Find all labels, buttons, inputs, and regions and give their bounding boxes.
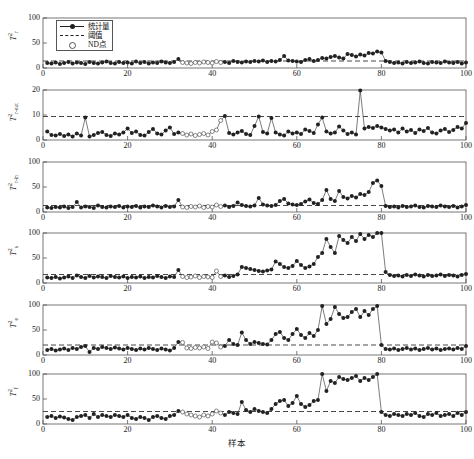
panel-2-plot — [0, 0, 474, 459]
panel-2-x-tick-0: 0 — [31, 141, 55, 150]
panel-1-x-tick-100: 100 — [454, 69, 474, 78]
panel-3-data-point — [405, 205, 409, 209]
panel-3-data-point — [295, 203, 299, 207]
panel-5-x-tick-40: 40 — [200, 356, 224, 365]
panel-4-y-tick-100: 100 — [16, 228, 40, 237]
panel-1-data-point — [151, 61, 155, 65]
panel-4-data-point — [307, 265, 311, 269]
panel-5-data-point — [316, 328, 320, 332]
panel-5-x-tick-60: 60 — [285, 356, 309, 365]
panel-4-data-point — [350, 235, 354, 239]
panel-3-data-point — [447, 205, 451, 209]
panel-2-data-point — [121, 131, 125, 135]
panel-1-data-point — [320, 56, 324, 60]
panel-5-y-label-subscript: e — [13, 318, 19, 320]
panel-6-data-point — [303, 405, 307, 409]
panel-5-nd-point — [214, 341, 218, 345]
panel-4-data-point — [240, 265, 244, 269]
panel-2-data-point — [434, 132, 438, 136]
panel-3-data-point — [58, 206, 62, 210]
panel-4-series-line — [47, 233, 466, 279]
panel-3-x-tick-60: 60 — [285, 213, 309, 222]
legend-label-statistic: 统计量 — [88, 22, 109, 31]
panel-2-data-point — [104, 133, 108, 137]
panel-2-data-point — [49, 133, 53, 137]
panel-6-data-point — [172, 413, 176, 417]
panel-4-data-point — [138, 275, 142, 279]
panel-4-nd-point — [214, 269, 218, 273]
panel-3-data-point — [312, 201, 316, 205]
panel-4-x-tick-0: 0 — [31, 284, 55, 293]
panel-3-data-point — [409, 205, 413, 209]
panel-2-data-point — [354, 133, 358, 137]
panel-3-data-point — [244, 204, 248, 208]
panel-5-data-point — [113, 346, 117, 350]
panel-5-nd-point — [181, 341, 185, 345]
panel-3-data-point — [231, 204, 235, 208]
panel-3-data-point — [341, 195, 345, 199]
panel-6-data-point — [430, 413, 434, 417]
panel-5-data-point — [291, 332, 295, 336]
panel-4-y-label-subscript: s — [13, 246, 19, 248]
panel-5-nd-point — [193, 346, 197, 350]
panel-4-data-point — [333, 251, 337, 255]
panel-5-data-point — [464, 344, 468, 348]
panel-1-data-point — [456, 60, 460, 64]
panel-3-data-point — [113, 205, 117, 209]
panel-4-data-point — [172, 275, 176, 279]
panel-2-data-point — [231, 133, 235, 137]
panel-2-data-point — [96, 131, 100, 135]
panel-2-data-point — [261, 130, 265, 134]
panel-2-data-point — [413, 131, 417, 135]
panel-6-data-point — [126, 413, 130, 417]
panel-1-data-point — [104, 60, 108, 64]
panel-3-nd-point — [198, 204, 202, 208]
panel-3-nd-point — [202, 206, 206, 210]
panel-6-nd-point — [214, 409, 218, 413]
panel-3-data-point — [117, 204, 121, 208]
panel-4-data-point — [79, 275, 83, 279]
panel-2-data-point — [447, 130, 451, 134]
panel-2-data-point — [155, 132, 159, 136]
legend-item-statistic: 统计量 — [59, 22, 109, 31]
panel-6-data-point — [274, 402, 278, 406]
panel-1-data-point — [109, 61, 113, 65]
panel-5-data-point — [417, 348, 421, 352]
panel-6-data-point — [413, 411, 417, 415]
panel-1-data-point — [176, 57, 180, 61]
panel-4-data-point — [282, 265, 286, 269]
panel-6-x-tick-0: 0 — [31, 425, 55, 434]
panel-4-nd-point — [185, 276, 189, 280]
panel-5-nd-point — [185, 346, 189, 350]
panel-4-data-point — [401, 275, 405, 279]
panel-5-data-point — [443, 347, 447, 351]
panel-2-data-point — [307, 129, 311, 133]
panel-2-data-point — [371, 126, 375, 130]
panel-1-data-point — [303, 58, 307, 62]
panel-4-data-point — [392, 274, 396, 278]
panel-2-data-point — [253, 124, 257, 128]
panel-2-data-point — [464, 121, 468, 125]
panel-1-data-point — [337, 56, 341, 60]
panel-6-data-point — [151, 415, 155, 419]
panel-2-data-point — [75, 132, 79, 136]
panel-5-data-point — [413, 347, 417, 351]
panel-5-data-point — [164, 348, 168, 352]
panel-2-data-point — [79, 134, 83, 138]
panel-1-data-point — [316, 58, 320, 62]
panel-4-nd-point — [189, 275, 193, 279]
panel-6-nd-point — [206, 414, 210, 418]
panel-4-data-point — [456, 275, 460, 279]
panel-2-data-point — [295, 131, 299, 135]
panel-2-data-point — [384, 127, 388, 131]
panel-4-data-point — [422, 275, 426, 279]
panel-4-y-label-superscript: 2 — [7, 248, 13, 251]
panel-4-data-point — [236, 273, 240, 277]
panel-4-data-point — [248, 267, 252, 271]
panel-3-nd-point — [185, 206, 189, 210]
panel-3-data-point — [88, 205, 92, 209]
panel-3-x-tick-40: 40 — [200, 213, 224, 222]
panel-1-data-point — [396, 61, 400, 65]
panel-1-data-point — [358, 53, 362, 57]
panel-1-nd-point — [189, 62, 193, 66]
